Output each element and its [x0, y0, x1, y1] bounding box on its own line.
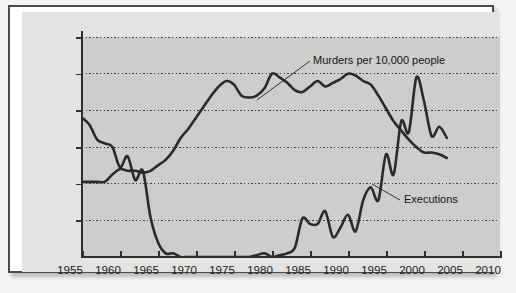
series-line-executions [82, 77, 447, 257]
x-axis-tick [348, 251, 350, 258]
x-axis-tick [82, 251, 84, 258]
x-axis-tick [158, 251, 160, 258]
y-axis-tick [76, 37, 83, 39]
x-axis-tick [196, 251, 198, 258]
plot-area: Murders per 10,000 people Executions [82, 37, 500, 257]
murders-leader-line [257, 61, 310, 100]
y-axis-tick [76, 74, 83, 76]
annotation-leaders [257, 61, 400, 200]
figure-container: 120 100 80 60 40 20 [0, 0, 516, 293]
x-axis-tick [424, 251, 426, 258]
murders-series-label: Murders per 10,000 people [313, 55, 445, 66]
x-axis-tick [272, 251, 274, 258]
x-tick-label: 2010 [465, 265, 511, 277]
executions-series-label: Executions [404, 194, 458, 205]
x-axis-line [81, 256, 500, 258]
y-axis-line [81, 31, 83, 258]
x-axis-tick [310, 251, 312, 258]
x-axis-tick [120, 251, 122, 258]
y-axis-tick [76, 147, 83, 149]
axis-band: 120 100 80 60 40 20 [22, 12, 500, 272]
x-axis-tick [234, 251, 236, 258]
y-axis-tick [76, 110, 83, 112]
chart-canvas [82, 37, 500, 257]
figure-frame: 120 100 80 60 40 20 [8, 5, 494, 273]
y-axis-tick [76, 184, 83, 186]
x-axis-tick [386, 251, 388, 258]
series-layer [82, 73, 447, 257]
y-axis-tick [76, 220, 83, 222]
x-axis-tick [500, 251, 502, 258]
series-line-murders-per-10-000-people [82, 73, 447, 182]
x-axis-tick [462, 251, 464, 258]
